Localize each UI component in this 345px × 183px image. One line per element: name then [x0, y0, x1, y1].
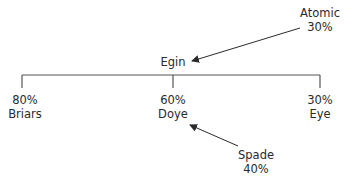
eye-share: 30% — [307, 93, 333, 107]
eye-name: Eye — [307, 107, 333, 121]
arrow-spade-to-doye — [190, 125, 238, 146]
doye-share: 60% — [158, 93, 188, 107]
spade-name: Spade — [238, 148, 274, 162]
child-doye: 60% Doye — [158, 93, 188, 121]
child-briars: 80% Briars — [8, 93, 42, 121]
spade-share: 40% — [238, 162, 274, 176]
atomic-share: 30% — [300, 20, 340, 34]
arrow-atomic-to-egin — [192, 28, 300, 61]
external-spade: Spade 40% — [238, 148, 274, 176]
doye-name: Doye — [158, 107, 188, 121]
external-atomic: Atomic 30% — [300, 6, 340, 34]
briars-name: Briars — [8, 107, 42, 121]
child-eye: 30% Eye — [307, 93, 333, 121]
briars-share: 80% — [8, 93, 42, 107]
root-egin: Egin — [160, 55, 185, 69]
connector-lines — [0, 0, 345, 183]
atomic-name: Atomic — [300, 6, 340, 20]
egin-label: Egin — [160, 55, 185, 69]
